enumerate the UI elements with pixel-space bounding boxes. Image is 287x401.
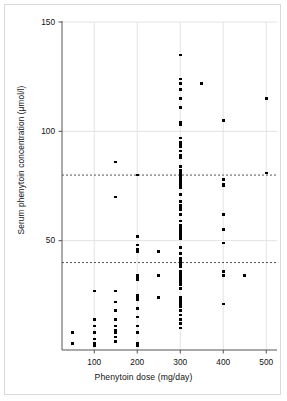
data-point	[179, 252, 182, 255]
data-point	[243, 274, 246, 277]
data-point	[71, 331, 74, 334]
data-point	[179, 97, 182, 100]
data-point	[179, 213, 182, 216]
data-point	[179, 54, 182, 57]
data-point	[179, 220, 182, 223]
data-point	[179, 137, 182, 140]
data-point	[93, 338, 96, 341]
data-point	[114, 325, 117, 328]
data-point	[222, 303, 225, 306]
data-point	[157, 274, 160, 277]
data-point	[179, 209, 182, 212]
data-point	[222, 213, 225, 216]
data-point	[179, 266, 182, 269]
y-axis-tick-label: 100	[29, 126, 55, 136]
data-point	[114, 290, 117, 293]
data-point	[179, 78, 182, 81]
x-axis-tick-label: 300	[165, 357, 195, 367]
data-point	[136, 235, 139, 238]
data-point	[222, 270, 225, 273]
data-point	[179, 145, 182, 148]
data-point	[179, 123, 182, 126]
data-point	[93, 344, 96, 347]
data-point	[179, 106, 182, 109]
chart-plot-area: Serum phenytoin concentration (μmol/l) P…	[5, 5, 282, 396]
figure-frame: Serum phenytoin concentration (μmol/l) P…	[4, 4, 281, 395]
y-axis-label: Serum phenytoin concentration (μmol/l)	[16, 60, 26, 260]
data-point	[93, 318, 96, 321]
data-point	[222, 228, 225, 231]
data-point	[114, 331, 117, 334]
data-point	[93, 290, 96, 293]
data-point	[179, 200, 182, 203]
chart-axes	[5, 5, 282, 396]
data-point	[179, 314, 182, 317]
data-point	[179, 283, 182, 286]
data-point	[179, 193, 182, 196]
data-point	[179, 287, 182, 290]
data-point	[114, 161, 117, 164]
data-point	[179, 322, 182, 325]
data-point	[136, 331, 139, 334]
data-point	[136, 325, 139, 328]
data-point	[136, 174, 139, 177]
data-point	[179, 88, 182, 91]
data-point	[179, 187, 182, 190]
data-point	[222, 178, 225, 181]
data-point	[136, 250, 139, 253]
data-point	[222, 274, 225, 277]
x-axis-tick-label: 400	[208, 357, 238, 367]
data-point	[222, 185, 225, 188]
data-point	[136, 316, 139, 319]
x-axis-tick-label: 500	[251, 357, 281, 367]
data-point	[265, 172, 268, 175]
y-axis-tick-label: 150	[29, 17, 55, 27]
data-point	[114, 301, 117, 304]
data-point	[179, 165, 182, 168]
data-point	[114, 336, 117, 339]
data-point	[71, 342, 74, 345]
data-point	[179, 156, 182, 159]
data-point	[114, 309, 117, 312]
data-point	[179, 318, 182, 321]
data-point	[136, 244, 139, 247]
data-point	[136, 298, 139, 301]
x-axis-label: Phenytoin dose (mg/day)	[5, 372, 282, 382]
data-point	[136, 307, 139, 310]
data-point	[136, 344, 139, 347]
x-axis-tick-label: 100	[79, 357, 109, 367]
data-point	[179, 82, 182, 85]
data-point	[200, 82, 203, 85]
data-point	[157, 296, 160, 299]
data-point	[114, 340, 117, 343]
data-point	[179, 305, 182, 308]
data-point	[222, 242, 225, 245]
y-axis-tick-label: 50	[29, 235, 55, 245]
data-point	[179, 237, 182, 240]
x-axis-tick-label: 200	[122, 357, 152, 367]
data-point	[114, 196, 117, 199]
data-point	[179, 246, 182, 249]
data-point	[136, 279, 139, 282]
data-point	[93, 331, 96, 334]
data-point	[114, 318, 117, 321]
data-point	[222, 119, 225, 122]
data-point	[179, 309, 182, 312]
data-point	[179, 150, 182, 153]
data-point	[157, 250, 160, 253]
data-point	[179, 327, 182, 330]
data-point	[265, 97, 268, 100]
data-point	[93, 325, 96, 328]
